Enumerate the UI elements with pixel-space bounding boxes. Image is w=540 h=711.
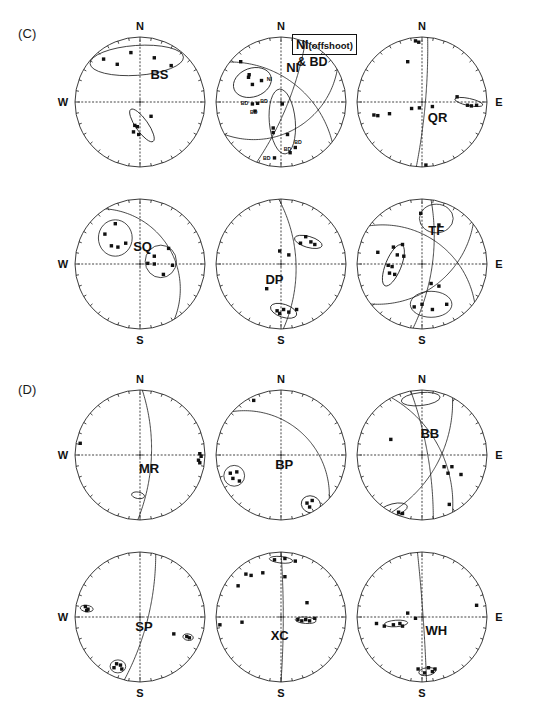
data-point <box>427 666 430 669</box>
data-point <box>136 125 139 128</box>
data-point <box>120 667 123 670</box>
data-point <box>273 558 276 561</box>
data-point <box>390 265 393 268</box>
data-point <box>170 64 173 67</box>
data-point <box>231 477 234 480</box>
data-point <box>295 308 298 311</box>
data-point <box>392 623 395 626</box>
site-label-bp: BP <box>275 457 293 472</box>
data-point <box>251 102 254 105</box>
data-point <box>252 399 255 402</box>
data-point <box>401 624 404 627</box>
cardinal-s: S <box>277 687 284 699</box>
data-point <box>229 472 232 475</box>
site-label-qr: QR <box>428 110 448 125</box>
data-point <box>448 503 451 506</box>
data-point <box>115 662 118 665</box>
data-point <box>171 264 174 267</box>
site-label-sp: SP <box>135 619 153 634</box>
data-point <box>162 273 165 276</box>
data-point <box>300 619 303 622</box>
contour-envelopes <box>131 491 145 500</box>
contour-envelopes <box>269 555 316 624</box>
data-point <box>387 264 390 267</box>
bd-tag: BD <box>250 109 258 115</box>
data-point <box>401 512 404 515</box>
cardinal-n: N <box>277 20 285 32</box>
bd-tag: BD <box>260 98 268 104</box>
data-point <box>475 104 478 107</box>
stereonet-bb: BBNE <box>335 368 509 542</box>
cardinal-s: S <box>136 687 143 699</box>
data-point <box>273 156 276 159</box>
contour-0 <box>131 491 145 500</box>
data-point <box>304 618 307 621</box>
data-point <box>116 63 119 66</box>
cardinal-s: S <box>136 334 143 346</box>
site-label-xc: XC <box>271 628 290 643</box>
cardinal-e: E <box>495 449 502 461</box>
center-cross <box>137 452 143 458</box>
data-point <box>172 632 175 635</box>
data-point <box>287 310 290 313</box>
data-point <box>413 305 416 308</box>
cardinal-n: N <box>418 373 426 385</box>
data-point <box>153 56 156 59</box>
data-point <box>103 232 106 235</box>
data-point <box>305 501 308 504</box>
data-point <box>251 83 254 86</box>
data-point <box>455 95 458 98</box>
data-point <box>256 102 259 105</box>
cardinal-w: W <box>58 96 69 108</box>
data-point <box>282 308 285 311</box>
contour-0 <box>293 233 324 252</box>
data-point <box>278 312 281 315</box>
cardinal-s: S <box>418 334 425 346</box>
data-point <box>132 130 135 133</box>
data-point <box>110 244 113 247</box>
data-point <box>414 617 417 620</box>
data-point <box>389 438 392 441</box>
center-cross <box>278 261 284 267</box>
data-point <box>397 511 400 514</box>
data-point <box>102 57 105 60</box>
data-point <box>437 284 440 287</box>
center-cross <box>419 99 425 105</box>
data-point <box>417 41 420 44</box>
data-point <box>283 557 286 560</box>
data-point <box>475 604 478 607</box>
stereonet-tf: TFES <box>335 177 509 351</box>
data-point <box>299 242 302 245</box>
data-point <box>388 112 391 115</box>
data-point <box>124 242 127 245</box>
data-point <box>459 473 462 476</box>
data-point <box>239 60 242 63</box>
data-point <box>153 262 156 265</box>
panel-label-d: (D) <box>18 382 37 397</box>
contour-0 <box>401 391 441 408</box>
data-point <box>188 636 191 639</box>
data-point <box>218 623 221 626</box>
center-cross <box>419 261 425 267</box>
data-point <box>304 235 307 238</box>
cardinal-n: N <box>136 20 144 32</box>
data-point <box>450 465 453 468</box>
data-point <box>470 104 473 107</box>
cardinal-e: E <box>495 96 502 108</box>
data-point <box>388 271 391 274</box>
data-point <box>238 479 241 482</box>
data-point <box>272 126 275 129</box>
data-point <box>137 133 140 136</box>
data-point <box>372 113 375 116</box>
data-point <box>129 51 132 54</box>
data-point <box>416 667 419 670</box>
stereonet-figure: (C) (D) NI(offshoot) & BD BSNWBDBDBDBDBD… <box>0 0 540 711</box>
data-point <box>431 308 434 311</box>
data-point <box>410 107 413 110</box>
data-point <box>294 146 297 149</box>
data-point <box>311 499 314 502</box>
site-label-mr: MR <box>139 461 160 476</box>
cardinal-n: N <box>136 373 144 385</box>
data-point <box>244 572 247 575</box>
data-point <box>278 249 281 252</box>
